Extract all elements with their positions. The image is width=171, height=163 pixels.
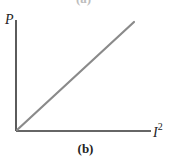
figure: (a) P I2 (b) (0, 0, 171, 163)
x-axis-label: I2 (153, 122, 163, 141)
x-axis-label-exponent: 2 (158, 121, 163, 132)
plot-area (0, 0, 171, 163)
data-line (17, 22, 134, 130)
figure-caption: (b) (0, 141, 171, 157)
y-axis-label: P (5, 12, 14, 28)
